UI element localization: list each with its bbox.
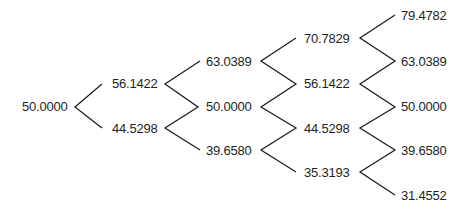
node-s2-2: 39.6580 bbox=[206, 144, 252, 158]
node-s4-3: 39.6580 bbox=[401, 144, 447, 158]
node-s2-0: 63.0389 bbox=[206, 55, 252, 69]
node-s4-1: 63.0389 bbox=[401, 55, 447, 69]
node-s4-2: 50.0000 bbox=[401, 100, 447, 114]
node-s3-0: 70.7829 bbox=[304, 32, 350, 46]
branch-2 bbox=[261, 38, 296, 172]
node-s3-3: 35.3193 bbox=[304, 166, 350, 180]
node-s3-1: 56.1422 bbox=[304, 77, 350, 91]
node-s4-4: 31.4552 bbox=[401, 189, 447, 203]
node-s3-2: 44.5298 bbox=[304, 122, 350, 136]
node-s4-0: 79.4782 bbox=[401, 9, 447, 23]
node-s1-0: 56.1422 bbox=[112, 77, 158, 91]
binomial-tree-diagram: 50.0000 56.1422 44.5298 63.0389 50.0000 … bbox=[0, 0, 475, 215]
branch-0-0 bbox=[75, 84, 102, 128]
node-s1-1: 44.5298 bbox=[112, 122, 158, 136]
branch-1 bbox=[165, 61, 200, 150]
node-s2-1: 50.0000 bbox=[206, 100, 252, 114]
node-s0-0: 50.0000 bbox=[22, 100, 68, 114]
branch-3 bbox=[360, 15, 395, 195]
